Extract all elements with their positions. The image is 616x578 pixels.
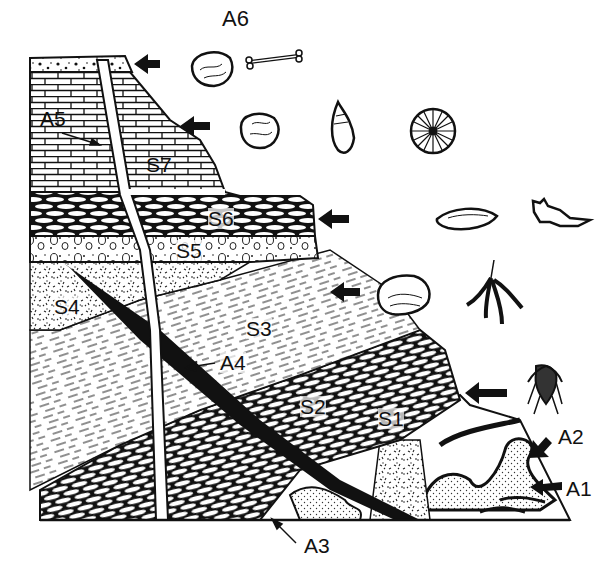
label-s6: S6 [208,208,234,229]
label-s7: S7 [146,154,172,175]
label-s4: S4 [54,296,80,317]
stratigraphy-diagram [0,0,616,578]
arrow-a2-icon [528,437,552,458]
clam-shell-icon [192,52,232,86]
bone-icon [246,50,302,69]
jaw-fragment-icon [533,199,590,226]
arrow-left-icon [465,382,507,404]
label-a2: A2 [558,426,584,447]
brachiopod-icon [378,276,429,315]
label-s1: S1 [378,408,404,429]
leaf-shell-icon [437,209,497,230]
clam-shell-icon [241,114,278,148]
stratum-s5 [30,236,318,262]
label-a1: A1 [566,478,592,499]
stratum-s6 [30,192,315,236]
stratum-a6-soil [30,56,132,72]
arrow-left-icon [134,54,160,74]
label-s5: S5 [176,240,202,261]
label-s3: S3 [246,318,272,339]
trilobite-icon [528,365,562,414]
sand-dollar-icon [411,109,455,153]
label-a3: A3 [304,535,330,556]
label-a6: A6 [222,8,249,30]
label-a4: A4 [220,352,246,373]
label-s2: S2 [300,396,326,417]
graptolite-icon [467,260,522,324]
spiral-snail-icon [332,102,354,153]
label-a5: A5 [40,108,66,129]
arrow-left-icon [318,209,349,229]
